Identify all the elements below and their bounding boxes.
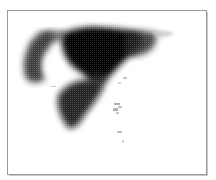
density-map bbox=[0, 0, 216, 180]
